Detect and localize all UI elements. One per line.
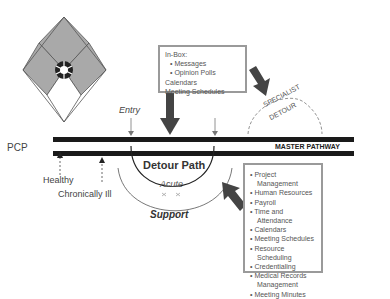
inbox-item: • Messages [165, 59, 240, 68]
services-item: • Resource Scheduling [250, 244, 316, 262]
services-item: • Medical Records [250, 271, 316, 280]
pcp-label: PCP [7, 143, 28, 153]
inbox-title: In-Box: [165, 50, 240, 59]
healthy-label: Healthy [43, 176, 74, 185]
services-item-continuation: Management [250, 280, 316, 289]
support-arc [118, 168, 232, 211]
chronically-ill-arrow-icon [99, 157, 105, 182]
entry-arrow-right-icon [212, 118, 218, 136]
inbox-item: Calendars [165, 78, 240, 87]
services-item: • Credentialing [250, 262, 316, 271]
services-item: • Payroll [250, 198, 316, 207]
support-label: Support [150, 210, 188, 220]
services-box: • Project Management • Human Resources •… [243, 163, 323, 273]
diamond-logo-icon [23, 17, 106, 122]
inbox-item: Meeting Schedules [165, 87, 240, 96]
entry-label: Entry [119, 106, 140, 115]
services-item: • Meeting Schedules [250, 234, 316, 243]
entry-arrow-left-icon [128, 118, 134, 136]
master-pathway-lower-bar [53, 151, 354, 156]
services-item: • Time and Attendance [250, 207, 316, 225]
services-item: • Human Resources [250, 188, 316, 197]
services-item: • Calendars [250, 225, 316, 234]
inbox-box: In-Box: • Messages • Opinion Polls Calen… [158, 45, 247, 93]
specialist-detour-arc [248, 98, 322, 134]
chronically-ill-label: Chronically Ill [58, 190, 112, 199]
acute-label: Acute [160, 180, 183, 189]
inbox-item: • Opinion Polls [165, 68, 240, 77]
services-item: • Meeting Minutes [250, 290, 316, 299]
master-pathway-upper-bar [53, 137, 354, 142]
detour-path-label: Detour Path [143, 160, 205, 171]
services-item: • Project Management [250, 170, 316, 188]
specialist-arrow-icon [249, 66, 270, 96]
master-pathway-label: MASTER PATHWAY [275, 143, 340, 150]
inbox-down-arrow-icon [160, 93, 180, 135]
